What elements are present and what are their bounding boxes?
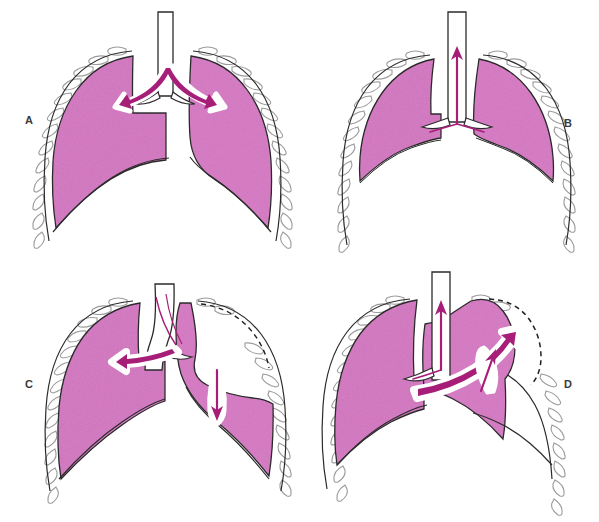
panel-label-b: B bbox=[564, 117, 572, 129]
panel-label-a: A bbox=[25, 114, 33, 126]
panel-label-d: D bbox=[564, 378, 572, 390]
panel-label-c: C bbox=[25, 378, 33, 390]
pneumothorax-figure bbox=[0, 0, 599, 522]
caption-strip bbox=[0, 508, 599, 522]
